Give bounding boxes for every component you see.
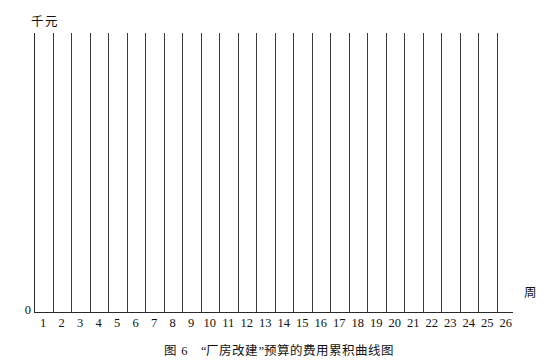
x-tick-label: 17 (333, 315, 346, 331)
x-tick-label: 25 (481, 315, 494, 331)
x-tick-label: 19 (370, 315, 383, 331)
x-tick-label: 15 (296, 315, 309, 331)
gridline (201, 33, 202, 312)
x-tick-label: 20 (388, 315, 401, 331)
x-tick-label: 21 (407, 315, 420, 331)
gridline (404, 33, 405, 312)
gridlines-group (0, 33, 558, 313)
gridline (312, 33, 313, 312)
x-tick-label: 9 (188, 315, 194, 331)
x-tick-label: 18 (351, 315, 364, 331)
figure-caption-number: 图 6 (164, 344, 188, 358)
gridline (53, 33, 54, 312)
x-tick-label: 14 (277, 315, 290, 331)
x-tick-label: 5 (114, 315, 120, 331)
gridline (275, 33, 276, 312)
gridline (423, 33, 424, 312)
gridline (238, 33, 239, 312)
x-tick-label: 4 (96, 315, 102, 331)
gridline (293, 33, 294, 312)
x-tick-label: 16 (314, 315, 327, 331)
x-tick-label: 24 (462, 315, 475, 331)
y-axis-label: 千元 (31, 15, 58, 30)
gridline (386, 33, 387, 312)
gridline (90, 33, 91, 312)
figure-caption: 图 6“厂房改建”预算的费用累积曲线图 (0, 343, 558, 360)
x-tick-label: 1 (40, 315, 46, 331)
gridline (330, 33, 331, 312)
x-tick-label: 2 (59, 315, 65, 331)
figure-container: 千元 0 1 2 3 4 5 (0, 0, 558, 364)
gridline (441, 33, 442, 312)
x-tick-label: 22 (425, 315, 438, 331)
x-tick-label: 13 (259, 315, 272, 331)
gridline (219, 33, 220, 312)
x-tick-label: 23 (444, 315, 457, 331)
x-axis-label: 周 (524, 286, 537, 301)
gridline (108, 33, 109, 312)
x-tick-label: 3 (77, 315, 83, 331)
x-tick-label: 8 (170, 315, 176, 331)
gridline (478, 33, 479, 312)
x-tick-label: 11 (222, 315, 234, 331)
gridline (367, 33, 368, 312)
gridline (460, 33, 461, 312)
gridline (497, 33, 498, 312)
gridline (349, 33, 350, 312)
x-tick-label: 26 (499, 315, 512, 331)
x-tick-label: 6 (133, 315, 139, 331)
gridline (256, 33, 257, 312)
gridline (164, 33, 165, 312)
x-tick-label: 7 (151, 315, 157, 331)
gridline (182, 33, 183, 312)
x-tick-label: 12 (240, 315, 253, 331)
gridline (71, 33, 72, 312)
x-tick-labels-group: 1 2 3 4 5 6 7 8 9 10 11 12 13 14 15 16 1… (0, 315, 558, 331)
x-tick-label: 10 (203, 315, 216, 331)
gridline (145, 33, 146, 312)
y-axis-line (34, 33, 35, 313)
x-axis-line (34, 312, 513, 313)
figure-caption-text: “厂房改建”预算的费用累积曲线图 (201, 344, 394, 358)
gridline (127, 33, 128, 312)
